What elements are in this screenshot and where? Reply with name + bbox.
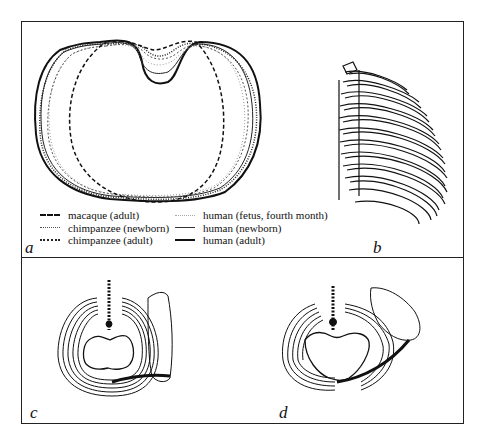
legend-column-primates: macaque (adult) chimpanzee (newborn) chi… <box>40 209 169 247</box>
legend-label: human (adult) <box>203 234 265 247</box>
thorax-outlines-drawing <box>30 34 270 206</box>
panel-divider <box>21 257 464 258</box>
legend-item-human-newborn: human (newborn) <box>175 222 328 235</box>
legend-column-human: human (fetus, fourth month) human (newbo… <box>175 209 328 247</box>
dashed-line-swatch-icon <box>40 214 60 216</box>
legend-item-human-fetus: human (fetus, fourth month) <box>175 209 328 222</box>
thin-solid-line-swatch-icon <box>175 227 195 228</box>
dotted-line-swatch-icon <box>40 227 60 228</box>
thorax-cranial-view-d-drawing <box>275 282 435 397</box>
panel-label-a: a <box>25 239 34 256</box>
bold-dotted-line-swatch-icon <box>40 239 60 241</box>
panel-label-d: d <box>279 404 288 421</box>
rib-cage-lateral-drawing <box>335 60 455 230</box>
legend-item-macaque: macaque (adult) <box>40 209 169 222</box>
thorax-cranial-view-c-drawing <box>52 278 182 403</box>
legend-item-human-adult: human (adult) <box>175 234 328 247</box>
legend-label: human (newborn) <box>203 222 282 235</box>
legend-label: human (fetus, fourth month) <box>203 209 328 222</box>
faint-dotted-line-swatch-icon <box>175 215 195 216</box>
legend-label: chimpanzee (newborn) <box>68 222 169 235</box>
panel-label-c: c <box>30 404 38 421</box>
bold-solid-line-swatch-icon <box>175 239 195 241</box>
legend-item-chimpanzee-adult: chimpanzee (adult) <box>40 234 169 247</box>
panel-label-b: b <box>373 239 382 256</box>
legend-item-chimpanzee-newborn: chimpanzee (newborn) <box>40 222 169 235</box>
legend-label: chimpanzee (adult) <box>68 234 153 247</box>
legend-label: macaque (adult) <box>68 209 139 222</box>
